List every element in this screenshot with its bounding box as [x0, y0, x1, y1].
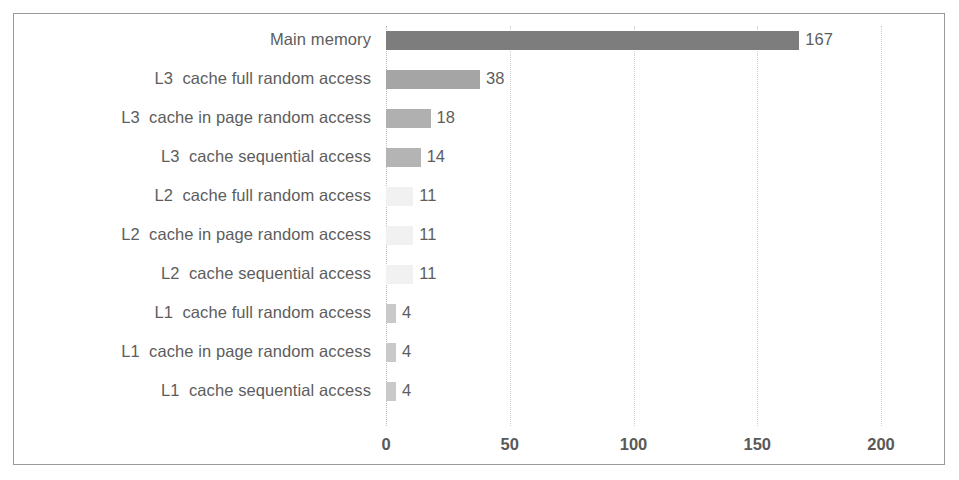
bar-row: L3 cache sequential access14: [14, 143, 944, 182]
bar: [386, 343, 396, 362]
bar-row: L3 cache full random access38: [14, 65, 944, 104]
bar-value-label: 4: [402, 338, 411, 365]
bar-value-label: 11: [419, 221, 436, 248]
bar-value-label: 11: [419, 182, 436, 209]
bar-track: 4: [386, 338, 944, 365]
category-label: L1 cache full random access: [11, 299, 371, 326]
bar-track: 11: [386, 221, 944, 248]
category-label: L3 cache in page random access: [11, 104, 371, 131]
bar: [386, 148, 421, 167]
bar: [386, 187, 413, 206]
chart-frame: Main memory167L3 cache full random acces…: [13, 13, 945, 465]
x-tick-label: 0: [381, 432, 390, 456]
bar-value-label: 18: [437, 104, 455, 131]
bar-track: 11: [386, 182, 944, 209]
bar-value-label: 14: [427, 143, 445, 170]
bar-track: 167: [386, 26, 944, 53]
bar: [386, 382, 396, 401]
bar-track: 4: [386, 377, 944, 404]
category-label: L2 cache full random access: [11, 182, 371, 209]
bar-row: L2 cache sequential access11: [14, 260, 944, 299]
category-label: L3 cache sequential access: [11, 143, 371, 170]
bar-value-label: 4: [402, 377, 411, 404]
bar-track: 38: [386, 65, 944, 92]
bar: [386, 31, 799, 50]
bar-track: 4: [386, 299, 944, 326]
bar-rows: Main memory167L3 cache full random acces…: [14, 26, 944, 416]
category-label: L2 cache sequential access: [11, 260, 371, 287]
x-tick-label: 100: [620, 432, 648, 456]
category-label: L3 cache full random access: [11, 65, 371, 92]
category-label: L1 cache in page random access: [11, 338, 371, 365]
bar-track: 11: [386, 260, 944, 287]
bar-row: L1 cache sequential access4: [14, 377, 944, 416]
bar: [386, 109, 431, 128]
bar: [386, 70, 480, 89]
bar: [386, 226, 413, 245]
bar-value-label: 11: [419, 260, 436, 287]
x-tick-label: 150: [743, 432, 771, 456]
category-label: L1 cache sequential access: [11, 377, 371, 404]
bar: [386, 304, 396, 323]
category-label: Main memory: [11, 26, 371, 53]
x-axis: 050100150200: [14, 432, 944, 462]
bar-value-label: 38: [486, 65, 504, 92]
bar-row: L2 cache in page random access11: [14, 221, 944, 260]
bar-row: L1 cache full random access4: [14, 299, 944, 338]
bar-row: L2 cache full random access11: [14, 182, 944, 221]
bar-value-label: 4: [402, 299, 411, 326]
bar-value-label: 167: [805, 26, 833, 53]
bar-track: 18: [386, 104, 944, 131]
plot-area: Main memory167L3 cache full random acces…: [14, 14, 944, 464]
bar-row: L1 cache in page random access4: [14, 338, 944, 377]
category-label: L2 cache in page random access: [11, 221, 371, 248]
x-tick-label: 200: [867, 432, 895, 456]
bar-row: Main memory167: [14, 26, 944, 65]
bar-track: 14: [386, 143, 944, 170]
bar-row: L3 cache in page random access18: [14, 104, 944, 143]
bar: [386, 265, 413, 284]
x-tick-label: 50: [501, 432, 519, 456]
